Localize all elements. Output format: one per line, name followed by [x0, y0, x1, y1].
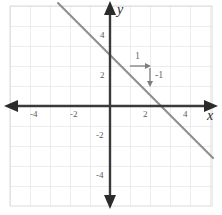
slope-rise-label: -1 — [155, 70, 163, 80]
y-tick-label-neg4: -4 — [96, 171, 104, 180]
x-tick-label-4: 4 — [183, 110, 188, 119]
x-axis-label: x — [207, 109, 213, 123]
coordinate-plane-svg — [0, 0, 222, 215]
x-tick-label-neg4: -4 — [30, 110, 38, 119]
slope-run-label: 1 — [135, 51, 140, 61]
y-axis-label: y — [117, 3, 123, 17]
y-tick-label-2: 2 — [100, 71, 105, 80]
y-tick-label-neg2: -2 — [96, 131, 104, 140]
x-tick-label-neg2: -2 — [70, 110, 78, 119]
y-tick-label-4: 4 — [100, 31, 105, 40]
x-tick-label-2: 2 — [143, 110, 148, 119]
graph-canvas: -4 -2 2 4 4 2 -2 -4 y x 1 -1 — [0, 0, 222, 215]
